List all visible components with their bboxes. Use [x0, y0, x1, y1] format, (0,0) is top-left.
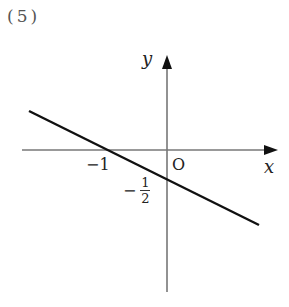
graph-line: [29, 111, 259, 225]
x-intercept-label: −1: [86, 155, 110, 174]
coordinate-plane: [0, 0, 289, 307]
y-intercept-denominator: 2: [141, 192, 149, 205]
y-intercept-numerator: 1: [141, 176, 149, 189]
y-intercept-label: − 1 2: [123, 176, 150, 205]
x-axis-arrow-icon: [264, 145, 278, 155]
graph-figure: (5) y x O −1 − 1 2: [0, 0, 289, 307]
y-axis-arrow-icon: [162, 55, 172, 69]
y-intercept-sign: −: [123, 181, 136, 200]
origin-label: O: [172, 155, 185, 174]
y-axis-label: y: [142, 48, 152, 69]
x-axis-label: x: [264, 156, 274, 177]
